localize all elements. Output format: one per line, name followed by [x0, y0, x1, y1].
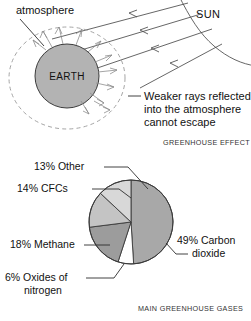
reflected-ray-7 [96, 83, 114, 87]
atmosphere-leader-line [20, 19, 44, 46]
reflected-ray-10-arrowhead [33, 40, 39, 47]
greenhouse-figure: SUN EARTH [0, 0, 251, 321]
incoming-ray-4-arrowhead [170, 60, 178, 67]
pie-label-oxides-line-1: 6% Oxides of [5, 271, 68, 283]
incoming-ray-1-arrowhead [129, 10, 137, 17]
reflected-ray-4 [88, 41, 101, 52]
weaker-rays-line-2: into the atmosphere [144, 103, 241, 115]
weaker-rays-line-3: cannot escape [144, 116, 216, 128]
reflected-ray-5-arrowhead [105, 55, 112, 61]
pie-label-other: 13% Other [34, 160, 85, 172]
reflected-ray-5 [95, 55, 112, 62]
main-greenhouse-gases-pie-chart: 13% Other 14% CFCs 18% Methane 6% Oxides… [5, 160, 243, 313]
incoming-ray-4 [140, 44, 222, 88]
pie-label-carbon-line-1: 49% Carbon [177, 234, 236, 246]
pie-slices-group [89, 180, 173, 264]
weaker-rays-line-1: Weaker rays reflected [144, 90, 251, 102]
leader-oxides [86, 264, 124, 278]
pie-label-cfcs: 14% CFCs [17, 182, 68, 194]
pie-label-oxides-line-2: nitrogen [24, 284, 62, 296]
greenhouse-effect-diagram: SUN EARTH [9, 0, 251, 147]
reflected-ray-2 [59, 27, 63, 44]
atmosphere-label: atmosphere [16, 4, 74, 16]
earth-label: EARTH [49, 71, 85, 82]
reflected-ray-1-arrowhead [40, 31, 47, 38]
pie-label-carbon-line-2: dioxide [192, 247, 225, 259]
reflected-ray-3-arrowhead [76, 29, 82, 37]
pie-label-methane: 18% Methane [10, 238, 75, 250]
greenhouse-effect-caption: GREENHOUSE EFFECT [163, 138, 250, 147]
reflected-ray-9-arrowhead [83, 107, 89, 114]
pie-slice-carbon-dioxide[interactable] [131, 180, 173, 264]
main-greenhouse-gases-caption: MAIN GREENHOUSE GASES [138, 304, 243, 313]
